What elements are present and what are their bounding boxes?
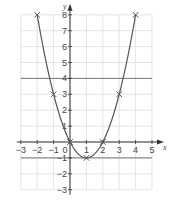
x-tick-label: 4 bbox=[133, 145, 138, 155]
y-tick-label: −3 bbox=[57, 185, 67, 195]
y-tick-label: −1 bbox=[57, 153, 67, 163]
y-tick-label: 8 bbox=[62, 10, 67, 20]
x-tick-label: 2 bbox=[100, 145, 105, 155]
x-tick-label: 5 bbox=[149, 145, 154, 155]
y-axis-arrow-icon bbox=[68, 4, 73, 11]
x-tick-label: 1 bbox=[84, 145, 89, 155]
x-tick-label: −3 bbox=[16, 145, 26, 155]
y-tick-label: 4 bbox=[62, 73, 67, 83]
x-tick-label: 3 bbox=[117, 145, 122, 155]
x-tick-label: −2 bbox=[32, 145, 42, 155]
y-tick-label: 2 bbox=[62, 105, 67, 115]
y-tick-label: 6 bbox=[62, 42, 67, 52]
y-tick-label: 5 bbox=[62, 58, 67, 68]
quadratic-chart: xy−3−2−1012345−3−2−112345678 bbox=[0, 0, 172, 204]
y-tick-label: −2 bbox=[57, 169, 67, 179]
x-axis-label: x bbox=[162, 143, 167, 152]
y-tick-label: 7 bbox=[62, 26, 67, 36]
y-tick-label: 3 bbox=[62, 89, 67, 99]
